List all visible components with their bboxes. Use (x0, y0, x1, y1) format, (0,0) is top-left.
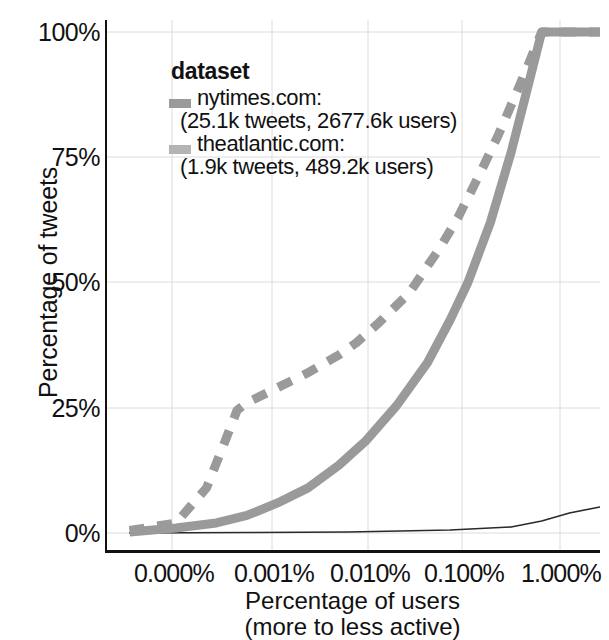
legend-item-nytimes[interactable]: nytimes.com: (25.1k tweets, 2677.6k user… (169, 86, 499, 132)
legend-key-theatlantic-icon (169, 145, 191, 154)
x-axis-title: Percentage of users (more to less active… (105, 588, 600, 640)
legend-item-theatlantic[interactable]: theatlantic.com: (1.9k tweets, 489.2k us… (169, 132, 499, 178)
y-tick-label-50: 50% (4, 268, 100, 297)
y-tick-label-0: 0% (4, 519, 100, 548)
legend-label-nytimes: nytimes.com: (25.1k tweets, 2677.6k user… (169, 85, 499, 132)
x-tick-label-3: 0.100% (424, 559, 504, 588)
x-tick-label-1: 0.001% (234, 559, 314, 588)
y-axis-ticks: 100% 75% 50% 25% 0% (0, 0, 100, 638)
x-tick-label-0: 0.000% (134, 559, 214, 588)
legend-key-nytimes-icon (169, 99, 191, 108)
legend-label-nytimes-line1: nytimes.com: (197, 85, 322, 110)
x-tick-label-2: 0.010% (330, 559, 410, 588)
legend-label-theatlantic-line1: theatlantic.com: (197, 131, 345, 156)
legend-label-theatlantic-line2: (1.9k tweets, 489.2k users) (169, 155, 499, 178)
y-tick-label-75: 75% (4, 143, 100, 172)
chart-legend: dataset nytimes.com: (25.1k tweets, 2677… (169, 58, 499, 178)
x-axis-title-main: Percentage of users (245, 587, 460, 614)
y-tick-label-100: 100% (4, 18, 100, 47)
x-tick-label-4: 1.000% (521, 559, 601, 588)
y-tick-label-25: 25% (4, 394, 100, 423)
x-axis-title-sub: (more to less active) (105, 614, 600, 640)
plot-area: dataset nytimes.com: (25.1k tweets, 2677… (105, 20, 600, 553)
legend-label-nytimes-line2: (25.1k tweets, 2677.6k users) (169, 109, 499, 132)
legend-label-theatlantic: theatlantic.com: (1.9k tweets, 489.2k us… (169, 131, 499, 178)
legend-title: dataset (171, 58, 499, 85)
